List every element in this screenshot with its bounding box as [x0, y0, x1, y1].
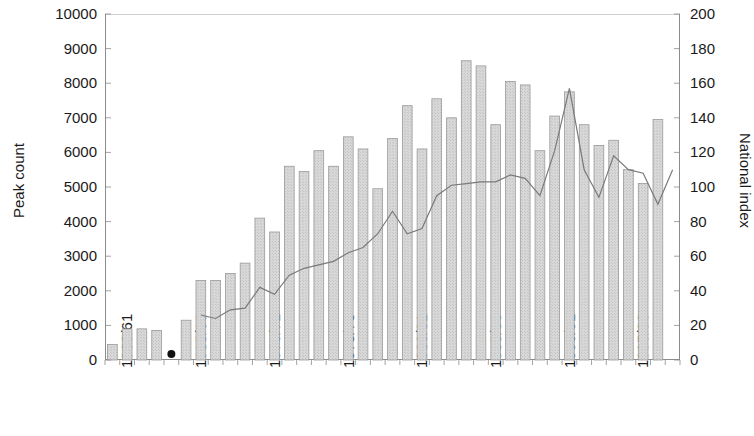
bar [594, 145, 604, 360]
bar [122, 329, 132, 360]
bar [240, 263, 250, 360]
bar [329, 166, 339, 360]
bar [579, 125, 589, 360]
bar [550, 116, 560, 360]
y-axis-left-tick-6000: 6000 [39, 144, 97, 159]
bar [225, 274, 235, 361]
bar [299, 171, 309, 360]
bar [314, 151, 324, 360]
y-axis-left-tick-7000: 7000 [39, 110, 97, 125]
y-axis-right-tick-0: 0 [690, 352, 748, 367]
bar [476, 66, 486, 360]
chart-canvas [105, 14, 680, 360]
y-axis-left-tick-10000: 10000 [39, 6, 97, 21]
bar [152, 331, 162, 360]
y-axis-right-tick-140: 140 [690, 110, 748, 125]
y-axis-left-tick-1000: 1000 [39, 317, 97, 332]
bar [520, 85, 530, 360]
y-axis-left-title: Peak count [10, 91, 27, 271]
bar [358, 149, 368, 360]
bar [535, 151, 545, 360]
y-axis-left-tick-4000: 4000 [39, 214, 97, 229]
bar [373, 189, 383, 360]
y-axis-right-tick-80: 80 [690, 214, 748, 229]
bar [388, 139, 398, 360]
bar [447, 118, 457, 360]
bar [432, 99, 442, 360]
y-axis-left-tick-8000: 8000 [39, 75, 97, 90]
y-axis-left-tick-3000: 3000 [39, 248, 97, 263]
y-axis-right-tick-160: 160 [690, 75, 748, 90]
bar [624, 170, 634, 360]
bar [653, 120, 663, 360]
bar [270, 232, 280, 360]
y-axis-right-tick-60: 60 [690, 248, 748, 263]
y-axis-right-tick-100: 100 [690, 179, 748, 194]
y-axis-right-tick-200: 200 [690, 6, 748, 21]
bar [491, 125, 501, 360]
bar [461, 61, 471, 360]
plot-area [105, 14, 680, 360]
point-markers [167, 350, 175, 358]
bar [506, 81, 516, 360]
y-axis-right-tick-40: 40 [690, 283, 748, 298]
bar-series [108, 61, 663, 360]
zero-value-marker [167, 350, 175, 358]
y-axis-right-tick-20: 20 [690, 317, 748, 332]
bar [137, 329, 147, 360]
bar [196, 280, 206, 360]
y-axis-left-tick-5000: 5000 [39, 179, 97, 194]
bar [181, 320, 191, 360]
bar [638, 184, 648, 360]
y-axis-right-tick-120: 120 [690, 144, 748, 159]
bar [565, 92, 575, 360]
bar [108, 344, 118, 360]
bar [343, 137, 353, 360]
y-axis-left-tick-0: 0 [39, 352, 97, 367]
y-axis-left-tick-9000: 9000 [39, 41, 97, 56]
y-axis-right-tick-180: 180 [690, 41, 748, 56]
bar [284, 166, 294, 360]
bar [417, 149, 427, 360]
bar [609, 140, 619, 360]
bar [211, 280, 221, 360]
y-axis-left-tick-2000: 2000 [39, 283, 97, 298]
